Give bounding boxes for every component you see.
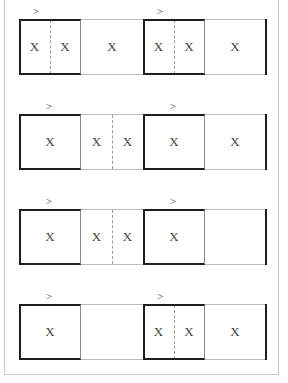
cursor-marker-right: > bbox=[170, 100, 176, 112]
cell: X bbox=[143, 19, 174, 75]
diagram-row-4: > X > X X X bbox=[0, 304, 288, 360]
cell: X bbox=[81, 209, 112, 265]
cell: X bbox=[112, 209, 143, 265]
dashed-divider bbox=[174, 305, 175, 359]
end-bar bbox=[265, 304, 267, 360]
cursor-marker-right: > bbox=[157, 290, 163, 302]
empty-cell bbox=[205, 209, 265, 265]
dashed-divider bbox=[174, 20, 175, 74]
end-bar bbox=[265, 209, 267, 265]
cell: X bbox=[143, 209, 205, 265]
cell: X bbox=[19, 209, 81, 265]
cell: X bbox=[143, 114, 205, 170]
cell: X bbox=[174, 304, 204, 360]
cursor-marker-left: > bbox=[46, 290, 52, 302]
empty-cell bbox=[81, 304, 143, 360]
cell: X bbox=[205, 114, 265, 170]
diagram-row-1: > X X X > X X X bbox=[0, 19, 288, 75]
cell: X bbox=[174, 19, 204, 75]
cell: X bbox=[19, 19, 50, 75]
end-bar bbox=[265, 19, 267, 75]
dashed-divider bbox=[112, 115, 113, 169]
dashed-divider bbox=[50, 20, 51, 74]
cursor-marker-left: > bbox=[46, 195, 52, 207]
dashed-divider bbox=[112, 210, 113, 264]
cell: X bbox=[81, 114, 112, 170]
cursor-marker-right: > bbox=[157, 5, 163, 17]
cell: X bbox=[143, 304, 174, 360]
end-bar bbox=[265, 114, 267, 170]
cell: X bbox=[81, 19, 143, 75]
diagram-row-3: > X X X > X bbox=[0, 209, 288, 265]
cursor-marker-left: > bbox=[33, 5, 39, 17]
cursor-marker-left: > bbox=[46, 100, 52, 112]
cell: X bbox=[50, 19, 80, 75]
cell: X bbox=[112, 114, 143, 170]
cell: X bbox=[19, 304, 81, 360]
cell: X bbox=[205, 19, 265, 75]
cell: X bbox=[19, 114, 81, 170]
diagram-row-2: > X X X > X X bbox=[0, 114, 288, 170]
cursor-marker-right: > bbox=[170, 195, 176, 207]
cell: X bbox=[205, 304, 265, 360]
